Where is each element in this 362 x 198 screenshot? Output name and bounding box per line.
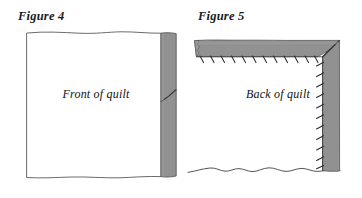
figure-5-binding-right-band xyxy=(323,40,340,171)
figure-5-caption: Figure 5 xyxy=(198,9,244,24)
figure-4-binding-shade xyxy=(161,34,164,176)
figure-5-panel-label: Back of quilt xyxy=(226,87,330,102)
figure-5-binding-top-shade xyxy=(197,41,339,44)
figure-4-quilt-panel xyxy=(27,32,161,178)
figure-4-caption: Figure 4 xyxy=(18,9,64,24)
figure-4-panel-label: Front of quilt xyxy=(44,87,148,102)
figure-4-group xyxy=(27,32,176,178)
figure-5-group xyxy=(188,40,340,174)
